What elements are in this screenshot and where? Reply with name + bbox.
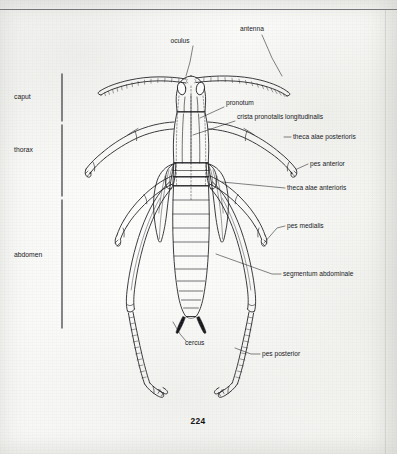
callout-oculus: oculus [170, 37, 193, 76]
region-label-caput: caput [14, 93, 31, 101]
leader-line [222, 182, 285, 188]
leader-line [193, 121, 235, 135]
region-label-thorax: thorax [14, 146, 33, 153]
callout-label: pronotum [226, 99, 254, 107]
callout-label: antenna [240, 25, 264, 32]
region-bracket-abdomen: abdomen [14, 200, 62, 329]
callout-crista-pronotalis-longitudinalis: crista pronotalis longitudinalis [193, 113, 324, 135]
callout-label: pes anterior [310, 160, 346, 168]
leader-line [297, 164, 308, 169]
callout-cercus: cercus [173, 322, 205, 346]
callout-label: theca alae posterioris [293, 133, 356, 141]
callout-theca-alae-anterioris: theca alae anterioris [222, 182, 347, 191]
region-bracket-thorax: thorax [14, 125, 62, 197]
callout-label: cercus [185, 339, 205, 346]
leader-line [186, 46, 193, 76]
callout-label: theca alae anterioris [287, 184, 347, 191]
callout-pes-medialis: pes medialis [264, 222, 324, 243]
callout-theca-alae-posterioris: theca alae posterioris [284, 133, 356, 141]
callout-antenna: antenna [240, 25, 282, 76]
page-folio: 224 [191, 416, 206, 426]
leader-line [262, 35, 282, 76]
region-label-abdomen: abdomen [14, 251, 43, 258]
region-bracket-caput: caput [14, 74, 62, 122]
callout-segmentum-abdominale: segmentum abdominale [216, 254, 354, 278]
callout-pes-posterior: pes posterior [235, 348, 301, 358]
leader-line [216, 254, 281, 274]
annotation-layer: caputthoraxabdomenoculusantennapronotumc… [0, 0, 397, 454]
leader-line [200, 107, 224, 118]
callout-label: segmentum abdominale [283, 270, 354, 278]
callout-label: pes posterior [262, 350, 301, 358]
leader-line [264, 226, 285, 243]
callout-label: oculus [170, 37, 190, 44]
leader-line [235, 348, 260, 354]
callout-label: crista pronotalis longitudinalis [237, 113, 324, 121]
callout-pes-anterior: pes anterior [297, 160, 346, 169]
callout-label: pes medialis [287, 222, 324, 230]
